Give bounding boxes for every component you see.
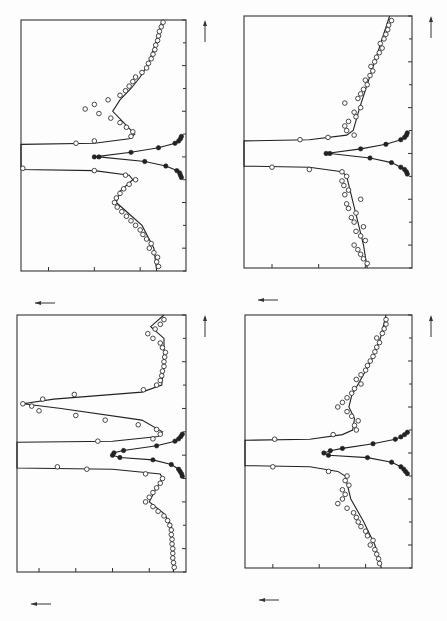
data-point-open xyxy=(72,392,77,397)
data-point-open xyxy=(365,82,370,87)
data-point-open xyxy=(340,400,345,405)
data-point-filled xyxy=(328,449,332,453)
x-axis-arrow-icon xyxy=(203,20,207,26)
data-point-open xyxy=(170,546,175,551)
data-point-open xyxy=(172,565,177,570)
data-point-open xyxy=(118,120,123,125)
data-point-open xyxy=(92,102,97,107)
data-point-filled xyxy=(371,442,375,446)
data-point-open xyxy=(162,355,167,360)
data-point-open xyxy=(121,187,126,192)
data-point-open xyxy=(346,119,351,124)
data-point-open xyxy=(358,234,363,239)
data-point-open xyxy=(335,501,340,506)
data-point-open xyxy=(365,261,370,266)
data-point-open xyxy=(340,169,345,174)
data-point-open xyxy=(131,130,136,135)
data-point-open xyxy=(373,547,378,552)
data-point-open xyxy=(365,363,370,368)
data-point-open xyxy=(345,396,350,401)
data-point-open xyxy=(344,202,349,207)
data-point-filled xyxy=(175,168,179,172)
data-point-open xyxy=(361,87,366,92)
data-point-open xyxy=(349,215,354,220)
data-point-filled xyxy=(179,134,183,138)
data-point-open xyxy=(170,542,175,547)
data-point-open xyxy=(354,428,359,433)
data-point-open xyxy=(343,478,348,483)
data-point-open xyxy=(153,47,158,52)
data-point-open xyxy=(143,472,148,477)
data-point-open xyxy=(123,173,128,178)
x-axis-arrow-icon xyxy=(203,315,207,321)
data-point-open xyxy=(340,488,345,493)
data-point-open xyxy=(170,551,175,556)
panel-t17-5k xyxy=(245,315,433,602)
data-point-open xyxy=(155,38,160,43)
data-point-open xyxy=(85,467,90,472)
data-point-filled xyxy=(112,451,116,455)
data-point-open xyxy=(129,219,134,224)
data-point-filled xyxy=(393,437,397,441)
data-point-open xyxy=(354,211,359,216)
data-point-open xyxy=(156,34,161,39)
data-point-open xyxy=(171,560,176,565)
data-point-open xyxy=(358,105,363,110)
data-point-filled xyxy=(151,458,155,462)
data-point-open xyxy=(114,196,119,201)
data-point-open xyxy=(359,373,364,378)
data-point-open xyxy=(380,46,385,51)
data-point-open xyxy=(156,264,161,269)
data-point-filled xyxy=(365,455,369,459)
data-point-open xyxy=(386,23,391,28)
data-point-open xyxy=(40,397,45,402)
x-axis-arrow-icon xyxy=(429,16,433,22)
data-point-open xyxy=(162,317,167,322)
data-point-open xyxy=(138,228,143,233)
data-point-open xyxy=(354,115,359,120)
data-point-open xyxy=(158,481,163,486)
data-point-open xyxy=(158,432,163,437)
data-point-open xyxy=(133,223,138,228)
data-point-filled xyxy=(384,142,388,146)
data-point-open xyxy=(103,418,108,423)
data-point-open xyxy=(158,322,163,327)
y-axis-arrow-icon xyxy=(259,598,265,602)
data-point-open xyxy=(158,378,163,383)
data-point-open xyxy=(352,133,357,138)
data-point-open xyxy=(151,52,156,57)
data-point-open xyxy=(145,331,150,336)
data-point-open xyxy=(153,327,158,332)
data-point-open xyxy=(363,368,368,373)
data-point-open xyxy=(120,209,125,214)
data-point-open xyxy=(124,125,129,130)
data-point-filled xyxy=(322,451,326,455)
data-point-open xyxy=(352,386,357,391)
data-point-open xyxy=(352,423,357,428)
data-point-open xyxy=(143,500,148,505)
data-point-open xyxy=(92,168,97,173)
data-point-open xyxy=(159,373,164,378)
data-point-filled xyxy=(156,146,160,150)
fit-curve xyxy=(17,315,174,572)
panel-t12-5k xyxy=(21,20,207,305)
data-point-open xyxy=(106,98,111,103)
data-point-open xyxy=(354,515,359,520)
data-point-open xyxy=(384,322,389,327)
data-point-filled xyxy=(405,131,409,135)
y-axis-arrow-icon xyxy=(258,298,264,302)
data-point-open xyxy=(154,260,159,265)
data-point-open xyxy=(384,32,389,37)
data-point-open xyxy=(358,92,363,97)
resolution-curve xyxy=(94,136,181,177)
data-point-open xyxy=(146,61,151,66)
data-point-open xyxy=(374,336,379,341)
data-point-open xyxy=(343,192,348,197)
data-point-open xyxy=(356,96,361,101)
data-point-open xyxy=(335,405,340,410)
data-point-open xyxy=(344,128,349,133)
data-point-open xyxy=(169,532,174,537)
data-point-open xyxy=(343,124,348,129)
data-point-open xyxy=(326,469,331,474)
data-point-open xyxy=(368,73,373,78)
